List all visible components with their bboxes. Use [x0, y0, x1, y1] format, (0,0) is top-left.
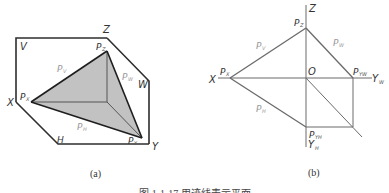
- svg-text:YW: YW: [359, 71, 368, 77]
- subfigure-label-a: (a): [90, 168, 101, 180]
- svg-text:V: V: [63, 68, 67, 74]
- figure-caption: 图 1-1-17 用迹线表示平面: [139, 187, 251, 193]
- svg-text:X: X: [25, 96, 30, 102]
- trace-pv: [230, 28, 306, 78]
- panel-a-axonometric: V W H Z X Y P Z P X P Y P V P W P H: [6, 24, 159, 180]
- svg-text:H: H: [262, 108, 266, 114]
- label-trace-ph: P H: [77, 122, 87, 132]
- label-axis-x: X: [208, 74, 217, 85]
- label-plane-v: V: [20, 41, 28, 52]
- trace-line-plane-figure: V W H Z X Y P Z P X P Y P V P W P H: [0, 0, 389, 193]
- label-point-px: P X: [220, 67, 230, 77]
- trace-ph: [230, 78, 306, 127]
- svg-text:X: X: [225, 71, 230, 77]
- label-trace-ph: P H: [256, 104, 266, 114]
- svg-text:H: H: [315, 145, 319, 151]
- svg-text:Y: Y: [372, 73, 379, 84]
- svg-text:Z: Z: [101, 46, 106, 52]
- label-origin-o: O: [308, 66, 316, 77]
- label-point-py: P Y: [128, 136, 138, 146]
- label-axis-z: Z: [308, 3, 317, 14]
- label-axis-yw: Y W: [372, 73, 385, 85]
- label-point-pyw: P YW: [353, 67, 368, 77]
- label-axis-x: X: [6, 97, 15, 108]
- label-axis-z: Z: [102, 24, 111, 35]
- label-trace-pv: P V: [57, 64, 67, 74]
- svg-text:W: W: [379, 79, 385, 85]
- svg-text:V: V: [262, 45, 266, 51]
- panel-b-projection: Z X O Y W Y H P Z P X P YW P YH P: [208, 3, 385, 179]
- label-axis-yh: Y H: [308, 139, 319, 151]
- label-point-px: P X: [20, 92, 30, 102]
- svg-text:H: H: [83, 126, 87, 132]
- label-trace-pv: P V: [256, 41, 266, 51]
- label-point-pyh: P YH: [309, 130, 322, 140]
- svg-text:Y: Y: [134, 140, 138, 146]
- label-plane-h: H: [57, 135, 64, 145]
- label-axis-y: Y: [152, 141, 159, 152]
- svg-text:W: W: [339, 42, 345, 48]
- label-point-pz: P Z: [294, 18, 304, 28]
- svg-text:Z: Z: [299, 22, 304, 28]
- label-point-pz: P Z: [96, 42, 106, 52]
- svg-text:YH: YH: [315, 134, 322, 140]
- svg-text:Y: Y: [308, 139, 315, 150]
- label-trace-pw: P W: [122, 72, 134, 82]
- subfigure-label-b: (b): [308, 167, 320, 179]
- miter-line-45: [306, 78, 362, 137]
- label-trace-pw: P W: [333, 38, 345, 48]
- svg-text:W: W: [128, 76, 134, 82]
- label-plane-w: W: [138, 79, 149, 90]
